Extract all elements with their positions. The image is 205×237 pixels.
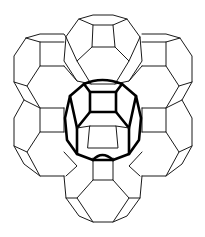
cage-upper-right [129,34,192,108]
cage-center-highlighted [65,80,141,160]
cage-bottom [64,152,142,222]
cage-lower-right [142,100,192,176]
cage-framework-drawing [0,0,205,237]
cage-top [64,15,142,84]
cage-upper-left [14,34,77,108]
zeolite-cage-diagram [0,0,205,237]
cage-lower-left [14,100,64,176]
